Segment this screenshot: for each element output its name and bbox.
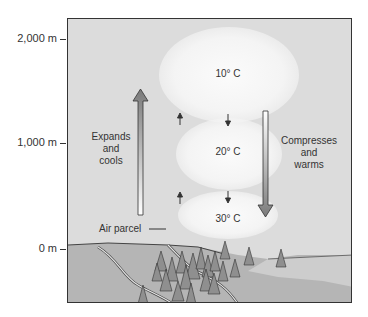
expands-and-cools-label: Expands and cools: [88, 131, 134, 167]
axis-tick-1000m: 1,000 m: [0, 136, 66, 148]
diagram-frame: 10° C 20° C 30° C: [67, 18, 352, 303]
arrow-down-icon: [258, 111, 273, 217]
compresses-and-warms-label: Compresses and warms: [272, 135, 346, 171]
small-arrows-icon: [178, 113, 231, 204]
axis-tick-0m: 0 m: [0, 242, 66, 254]
arrow-up-icon: [133, 89, 148, 215]
axis-tick-2000m: 2,000 m: [0, 32, 66, 44]
air-parcel-label: Air parcel: [99, 223, 141, 235]
